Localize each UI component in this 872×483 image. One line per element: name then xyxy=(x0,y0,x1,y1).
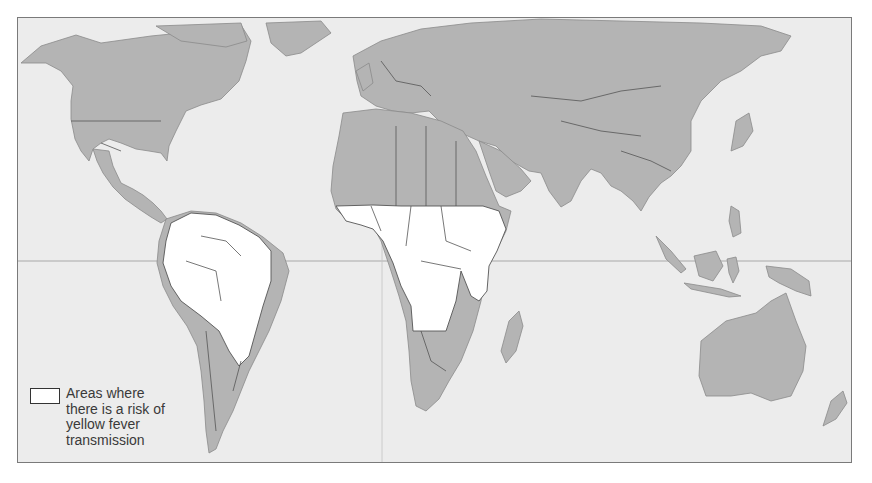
legend-label: Areas where there is a risk of yellow fe… xyxy=(66,386,176,448)
map-legend: Areas where there is a risk of yellow fe… xyxy=(30,386,176,448)
legend-swatch-risk-area xyxy=(30,388,60,404)
